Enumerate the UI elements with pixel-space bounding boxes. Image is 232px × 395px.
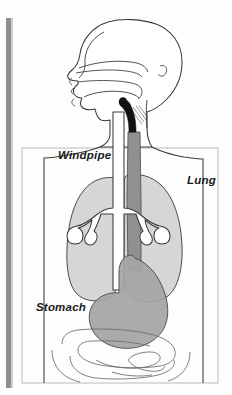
anatomy-illustration: Windpipe Lung Stomach bbox=[0, 0, 232, 395]
esophagus-tube bbox=[127, 132, 141, 270]
label-lung: Lung bbox=[187, 174, 216, 186]
page-edge-shadow-soft bbox=[11, 18, 13, 388]
page-edge-shadow-bar bbox=[6, 18, 11, 388]
label-stomach: Stomach bbox=[36, 301, 86, 313]
anatomy-figure: Windpipe Lung Stomach bbox=[0, 0, 232, 395]
label-windpipe: Windpipe bbox=[58, 149, 112, 161]
throat-opening-dot bbox=[119, 97, 127, 107]
